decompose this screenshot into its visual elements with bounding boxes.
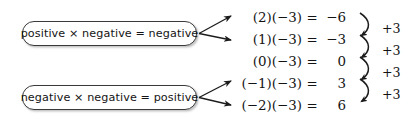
rule-box-positive-negative-label: positive × negative = negative [21,27,199,40]
equation-result: 3 [318,76,348,91]
equation-lhs: (−1)(−3) [240,76,306,91]
equation-result: 6 [318,98,348,113]
integer-multiplication-figure: positive × negative = negative negative … [0,0,412,125]
arrow-right-icon [199,34,231,41]
step-annotation-label: +3 [382,43,401,58]
rule-box-positive-negative: positive × negative = negative [22,21,197,46]
curved-brace-arrow-icon [360,57,368,80]
equation-result: 0 [318,54,348,69]
equation-row: (−1)(−3) = 3 [240,73,348,93]
equation-result: −3 [318,32,348,47]
equation-result: −6 [318,10,348,25]
equation-lhs: (2)(−3) [240,10,306,25]
equation-lhs: (1)(−3) [240,32,306,47]
step-annotation-label: +3 [382,65,401,80]
equation-row: (1)(−3) = −3 [240,29,348,49]
equation-equals: = [306,32,318,47]
equation-lhs: (0)(−3) [240,54,306,69]
arrow-right-icon [199,98,231,106]
rule-box-negative-negative-label: negative × negative = positive [21,91,199,104]
curved-brace-arrow-icon [360,79,368,102]
equation-equals: = [306,76,318,91]
step-annotation-label: +3 [382,21,401,36]
equation-equals: = [306,98,318,113]
arrow-right-icon [199,81,231,98]
rule-box-negative-negative: negative × negative = positive [22,85,197,110]
equation-lhs: (−2)(−3) [240,98,306,113]
curved-brace-arrow-icon [360,13,368,36]
equation-row: (−2)(−3) = 6 [240,95,348,115]
equation-equals: = [306,10,318,25]
curved-brace-arrow-icon [360,35,368,58]
step-annotation-label: +3 [382,87,401,102]
equation-row: (2)(−3) = −6 [240,7,348,27]
arrow-right-icon [199,16,231,34]
equation-row: (0)(−3) = 0 [240,51,348,71]
equation-equals: = [306,54,318,69]
